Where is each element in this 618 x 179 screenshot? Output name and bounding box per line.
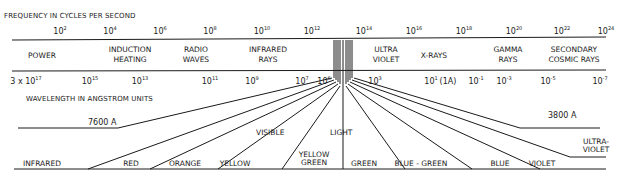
band-label-line2: VIOLET	[373, 55, 400, 64]
frequency-tick: 102	[53, 25, 66, 36]
color-labels: INFRAREDREDORANGEYELLOWYELLOWGREENGREENB…	[23, 137, 610, 168]
color-label-line2: GREEN	[301, 158, 327, 167]
frequency-ticks: 1021041061081010101210141016101810201022…	[53, 25, 614, 36]
band-label: X-RAYS	[421, 51, 448, 60]
color-label: GREEN	[351, 159, 377, 168]
wavelength-tick: 10-1	[468, 75, 483, 86]
band-label-line2: RAYS	[499, 55, 518, 64]
frequency-tick: 106	[153, 25, 166, 36]
wavelength-tick: 1013	[132, 75, 149, 86]
visible-label: VISIBLE	[256, 128, 285, 137]
frequency-tick: 1016	[406, 25, 423, 36]
color-label: BLUE	[490, 159, 509, 168]
band-label: ULTRA	[374, 45, 398, 54]
limit-3800: 3800 A	[548, 111, 577, 120]
wavelength-tick: 109	[245, 75, 258, 86]
color-label: INFRARED	[23, 159, 61, 168]
wavelength-tick: 101	[424, 75, 437, 86]
band-label-line2: WAVES	[183, 55, 210, 64]
color-label: BLUE - GREEN	[395, 159, 448, 168]
color-label: ORANGE	[169, 159, 201, 168]
wavelength-tick: 3 x 1017	[10, 75, 41, 86]
wavelength-tick: 1011	[202, 75, 219, 86]
band-label: INFRARED	[249, 45, 287, 54]
frequency-tick: 1024	[598, 25, 615, 36]
wavelength-tick: 10-3	[496, 75, 511, 86]
limit-7600: 7600 A	[88, 118, 117, 127]
wavelength-tick: 1015	[82, 75, 99, 86]
wavelength-ticks: 3 x 1017101510131011109107106103101(1A)1…	[10, 75, 607, 86]
visible-slot-bundle	[334, 40, 352, 86]
color-label-line2: VIOLET	[583, 145, 610, 154]
wavelength-axis-title: WAVELENGTH IN ANGSTROM UNITS	[26, 95, 153, 103]
frequency-axis-title: FREQUENCY IN CYCLES PER SECOND	[4, 12, 136, 20]
band-label: POWER	[28, 51, 56, 60]
band-label: SECONDARY	[551, 45, 598, 54]
light-label: LIGHT	[330, 128, 353, 137]
band-label: GAMMA	[493, 45, 523, 54]
band-label-line2: COSMIC RAYS	[548, 55, 599, 64]
top-spectrum-line	[12, 37, 606, 40]
bottom-spectrum-line	[12, 70, 606, 71]
color-label: YELLOW	[219, 159, 251, 168]
frequency-tick: 108	[203, 25, 216, 36]
band-label: INDUCTION	[109, 45, 152, 54]
wavelength-tick: 10-7	[592, 75, 607, 86]
frequency-tick: 104	[103, 25, 116, 36]
color-label: RED	[123, 159, 139, 168]
band-label-line2: HEATING	[113, 55, 146, 64]
frequency-tick: 1020	[506, 25, 523, 36]
wavelength-tick: 10-5	[540, 75, 555, 86]
color-label: VIOLET	[529, 159, 556, 168]
frequency-tick: 1014	[356, 25, 373, 36]
electromagnetic-spectrum-diagram: FREQUENCY IN CYCLES PER SECOND 102104106…	[0, 0, 618, 179]
frequency-tick: 1022	[554, 25, 571, 36]
frequency-tick: 1010	[254, 25, 271, 36]
band-label: RADIO	[184, 45, 208, 54]
frequency-tick: 1012	[304, 25, 321, 36]
band-labels: POWERINDUCTIONHEATINGRADIOWAVESINFRAREDR…	[28, 45, 600, 64]
frequency-tick: 1018	[456, 25, 473, 36]
band-label-line2: RAYS	[259, 55, 278, 64]
wavelength-tick: (1A)	[440, 77, 457, 86]
